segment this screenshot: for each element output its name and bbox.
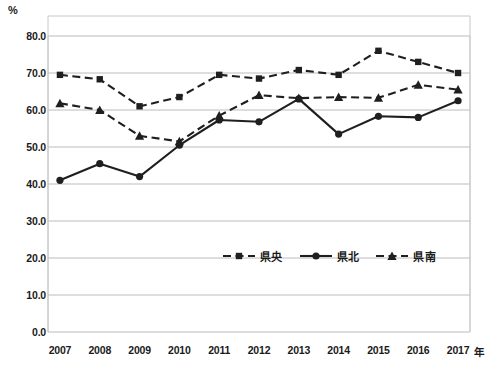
- data-point-marker-circle: [454, 97, 461, 104]
- line-chart: % 0.010.020.030.040.050.060.070.080.0 20…: [0, 0, 498, 373]
- plot-area: [0, 0, 498, 373]
- data-point-marker-square: [375, 48, 381, 54]
- x-axis-unit-label: 年: [474, 344, 484, 359]
- legend-item-県北[interactable]: 県北: [299, 248, 360, 264]
- data-point-marker-circle: [335, 130, 342, 137]
- legend-swatch-circle: [299, 250, 333, 262]
- series-line: [60, 99, 458, 180]
- series-県南: [55, 80, 462, 145]
- data-point-marker-circle: [375, 113, 382, 120]
- data-point-marker-square: [236, 253, 242, 259]
- legend-swatch-triangle: [375, 250, 409, 262]
- legend-item-県央[interactable]: 県央: [222, 248, 283, 264]
- data-point-marker-square: [216, 72, 222, 78]
- data-point-marker-triangle: [215, 111, 224, 120]
- data-point-marker-square: [455, 70, 461, 76]
- data-point-marker-triangle: [414, 80, 423, 89]
- data-point-marker-circle: [255, 118, 262, 125]
- series-県北: [56, 95, 461, 184]
- data-point-marker-square: [97, 76, 103, 82]
- data-point-marker-square: [415, 59, 421, 65]
- legend-item-県南[interactable]: 県南: [375, 248, 436, 264]
- data-series-group: [55, 48, 462, 184]
- legend-label: 県央: [260, 248, 283, 264]
- data-point-marker-square: [57, 72, 63, 78]
- plot-frame: [48, 16, 470, 332]
- data-point-marker-circle: [415, 114, 422, 121]
- legend-label: 県北: [337, 248, 360, 264]
- data-point-marker-circle: [96, 160, 103, 167]
- data-point-marker-circle: [136, 173, 143, 180]
- data-point-marker-circle: [56, 177, 63, 184]
- data-point-marker-square: [296, 67, 302, 73]
- data-point-marker-square: [176, 94, 182, 100]
- data-point-marker-square: [136, 103, 142, 109]
- legend-swatch-square: [222, 250, 256, 262]
- data-point-marker-square: [335, 72, 341, 78]
- data-point-marker-square: [256, 75, 262, 81]
- series-県央: [57, 48, 462, 110]
- data-point-marker-triangle: [254, 91, 263, 100]
- chart-legend: 県央県北県南: [222, 248, 436, 264]
- legend-label: 県南: [413, 248, 436, 264]
- data-point-marker-circle: [312, 252, 319, 259]
